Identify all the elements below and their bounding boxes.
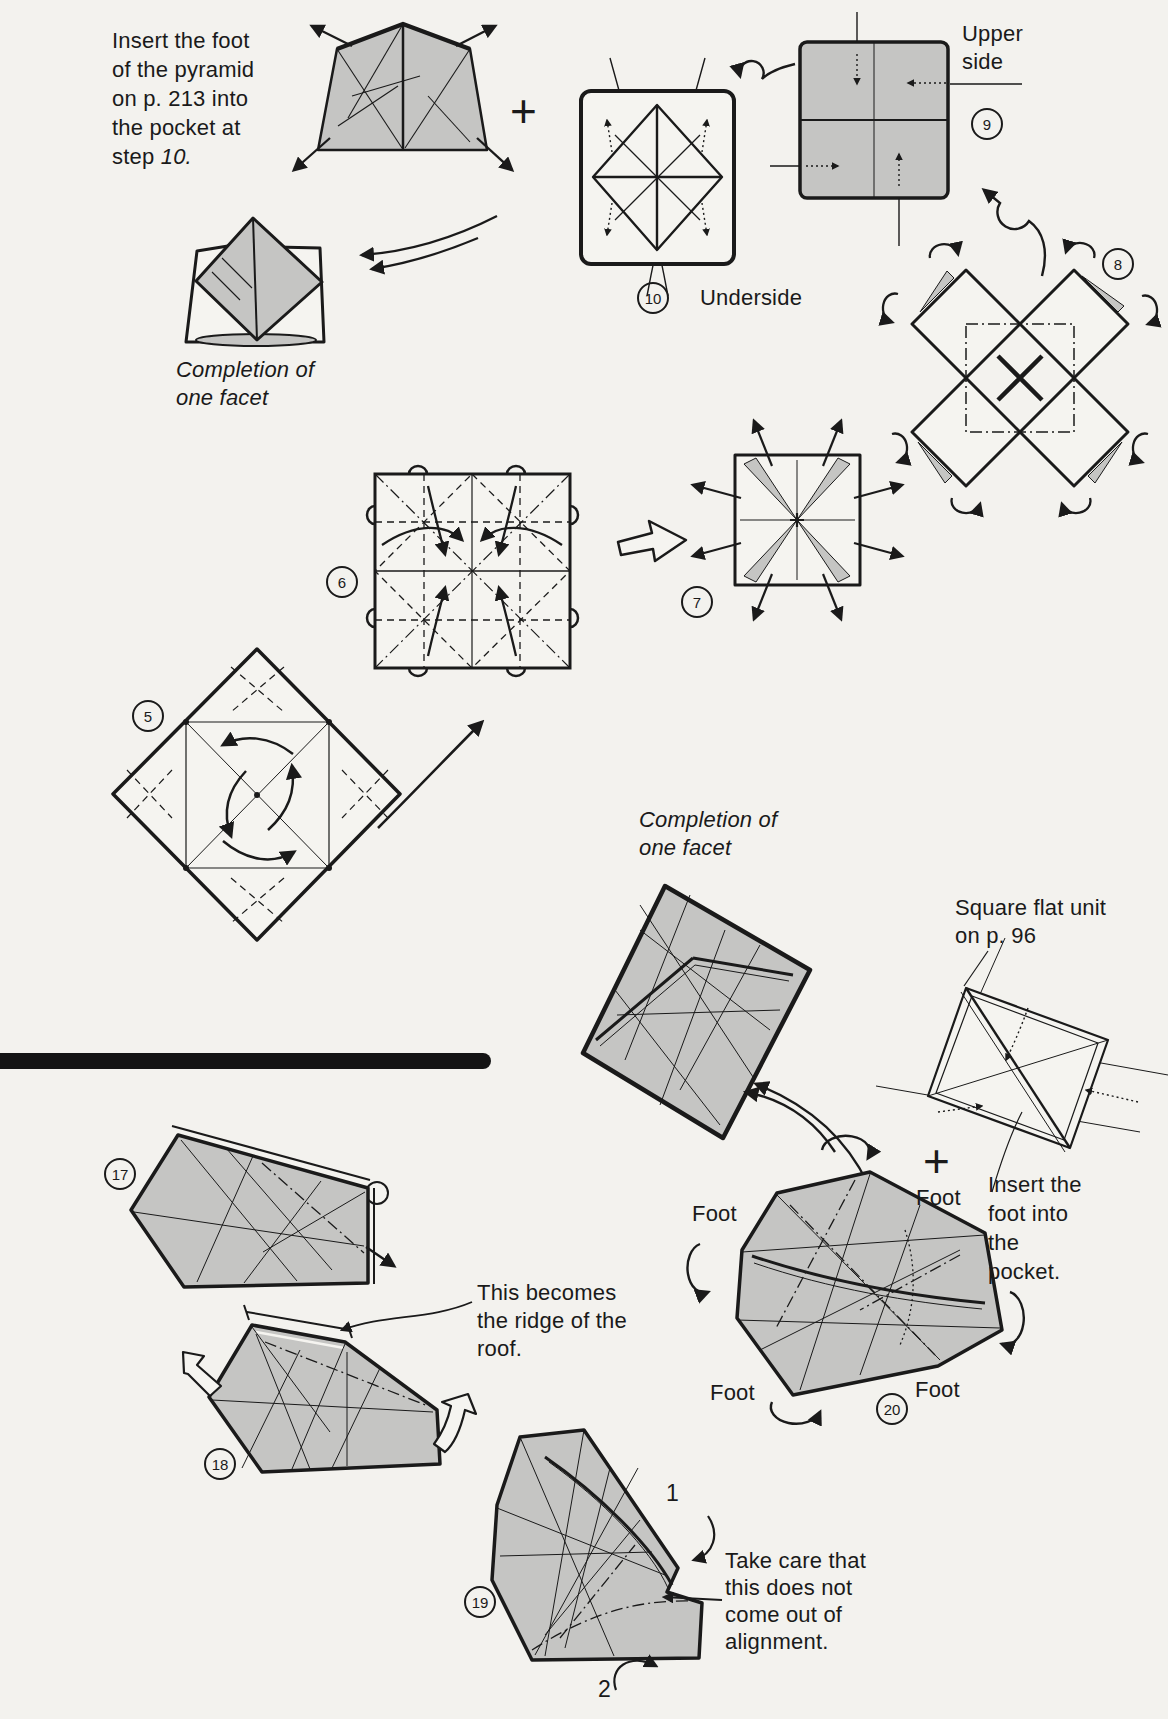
square-flat-unit-diagram <box>876 938 1168 1192</box>
underside-label: Underside <box>700 284 802 312</box>
origami-instruction-page: Insert the foot of the pyramid on p. 213… <box>0 0 1168 1719</box>
step17-roof-unit-diagram <box>131 1126 394 1287</box>
turn-arrow-icon <box>378 722 482 828</box>
flap-number-1: 1 <box>666 1480 679 1507</box>
plus-sign: + <box>923 1134 950 1188</box>
ridge-pointer-arrow-icon <box>342 1302 472 1330</box>
ridge-note: This becomes the ridge of the roof. <box>477 1279 627 1363</box>
step-badge-5: 5 <box>132 700 164 732</box>
step5-diamond-crease-diagram <box>113 649 400 940</box>
rotate-arrow-icon <box>740 61 795 79</box>
alignment-note: Take care that this does not come out of… <box>725 1547 866 1655</box>
step6-crease-square-diagram <box>367 466 578 676</box>
step-badge-9: 9 <box>971 108 1003 140</box>
pyramid-unit-diagram <box>294 24 512 170</box>
step-badge-19: 19 <box>464 1586 496 1618</box>
join-double-arrow-icon <box>746 1084 868 1184</box>
step-badge-8: 8 <box>1102 248 1134 280</box>
plus-sign: + <box>510 84 537 138</box>
insert-foot-note: Insert the foot into the pocket. <box>988 1170 1108 1286</box>
step18-roof-unit-diagram <box>183 1305 476 1472</box>
foot-label-lower-left: Foot <box>710 1379 755 1407</box>
completed-facet-pyramid-diagram <box>186 218 324 346</box>
flap-number-2: 2 <box>598 1676 611 1703</box>
step-badge-20: 20 <box>876 1393 908 1425</box>
foot-label-lower-right: Foot <box>915 1376 960 1404</box>
diagram-art <box>0 0 1168 1719</box>
step8-diamond-cluster-diagram <box>883 243 1157 513</box>
note-insert-pyramid: Insert the foot of the pyramid on p. 213… <box>112 26 292 171</box>
section-divider-bar <box>0 1053 491 1069</box>
rotate-arrow-icon <box>984 190 1045 276</box>
process-hollow-arrow-icon <box>618 521 686 561</box>
step19-assembled-unit-diagram <box>492 1430 714 1690</box>
step-badge-7: 7 <box>681 586 713 618</box>
square-flat-unit-label: Square flat unit on p. 96 <box>955 894 1106 950</box>
step-badge-18: 18 <box>204 1448 236 1480</box>
completion-caption-mid: Completion of one facet <box>639 806 777 862</box>
step10-underside-diagram <box>581 58 734 296</box>
step-badge-6: 6 <box>326 566 358 598</box>
step7-star-square-diagram <box>693 421 902 619</box>
completion-caption-top: Completion of one facet <box>176 356 314 412</box>
foot-label-upper-left: Foot <box>692 1200 737 1228</box>
foot-label-upper-right: Foot <box>916 1184 961 1212</box>
upper-side-label: Upper side <box>962 20 1023 76</box>
insert-double-arrow-icon <box>362 216 497 269</box>
step-badge-10: 10 <box>637 282 669 314</box>
step-badge-17: 17 <box>104 1158 136 1190</box>
